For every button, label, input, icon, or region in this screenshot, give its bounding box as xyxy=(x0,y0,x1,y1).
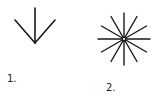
diagram-canvas xyxy=(0,0,162,109)
figure-2-label: 2. xyxy=(106,82,116,93)
figure-1-arrow xyxy=(15,8,55,43)
figure-1-label: 1. xyxy=(7,73,17,84)
figure-2-starburst xyxy=(98,13,150,65)
arrow-left-branch xyxy=(15,20,35,43)
star-center xyxy=(122,37,126,41)
arrow-right-branch xyxy=(35,20,55,43)
